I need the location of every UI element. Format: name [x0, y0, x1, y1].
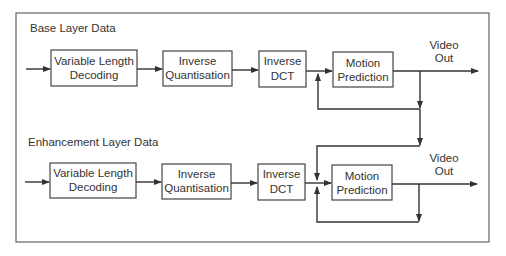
enh-idct-block: Inverse DCT: [258, 164, 305, 200]
base-iq-line1: Inverse: [179, 55, 217, 67]
base-vld-line1: Variable Length: [54, 55, 134, 67]
base-mp-line2: Prediction: [337, 71, 388, 83]
base-idct-line2: DCT: [271, 70, 295, 82]
base-idct-line1: Inverse: [264, 55, 302, 67]
base-idct-block: Inverse DCT: [259, 51, 306, 87]
base-mp-line1: Motion: [346, 57, 381, 69]
base-vld-line2: Decoding: [70, 69, 119, 81]
enh-output-line1: Video: [429, 152, 458, 164]
enh-output-line2: Out: [435, 165, 454, 177]
enh-layer-title: Enhancement Layer Data: [28, 136, 159, 148]
decoder-diagram: Base Layer Data Variable Length Decoding…: [0, 0, 506, 256]
enh-idct-line2: DCT: [270, 183, 294, 195]
enh-iq-line1: Inverse: [178, 168, 216, 180]
base-output-line1: Video: [429, 39, 458, 51]
enh-iq-line2: Quantisation: [164, 182, 229, 194]
enhancement-layer: Enhancement Layer Data Variable Length D…: [25, 136, 477, 222]
base-output-line2: Out: [435, 52, 454, 64]
base-iq-block: Inverse Quantisation: [163, 51, 232, 86]
outer-frame: [16, 13, 489, 242]
enh-vld-line1: Variable Length: [53, 167, 133, 179]
enh-mp-line1: Motion: [345, 170, 380, 182]
enh-vld-line2: Decoding: [69, 181, 118, 193]
base-iq-line2: Quantisation: [165, 69, 230, 81]
base-layer-title: Base Layer Data: [30, 22, 116, 34]
enh-mp-block: Motion Prediction: [332, 165, 392, 200]
enh-iq-block: Inverse Quantisation: [162, 164, 231, 199]
base-vld-block: Variable Length Decoding: [51, 50, 137, 86]
base-layer: Base Layer Data Variable Length Decoding…: [26, 22, 478, 145]
enh-idct-line1: Inverse: [263, 168, 301, 180]
base-mp-block: Motion Prediction: [333, 52, 393, 87]
enh-vld-block: Variable Length Decoding: [50, 163, 136, 198]
enh-mp-line2: Prediction: [336, 184, 387, 196]
